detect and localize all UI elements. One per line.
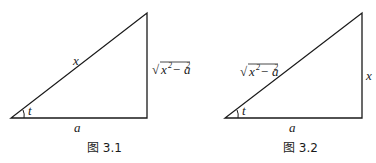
hypotenuse-label: x bbox=[72, 53, 79, 68]
figure-caption: 图 3.1 bbox=[87, 141, 122, 155]
figure-3-1: t x a √ x 2 − a 2 图 3.1 bbox=[11, 13, 191, 155]
svg-text:2: 2 bbox=[186, 61, 190, 70]
hypotenuse-label: √ x 2 − a 2 bbox=[240, 63, 279, 79]
base-label: a bbox=[74, 120, 81, 135]
svg-text:x: x bbox=[248, 64, 255, 79]
svg-text:√: √ bbox=[152, 62, 160, 77]
svg-text:x: x bbox=[160, 62, 167, 77]
svg-text:2: 2 bbox=[274, 63, 278, 72]
figure-caption: 图 3.2 bbox=[283, 141, 318, 155]
angle-label: t bbox=[28, 103, 32, 118]
vertical-side-label: √ x 2 − a 2 bbox=[152, 61, 191, 77]
angle-label: t bbox=[242, 103, 246, 118]
vertical-side-label: x bbox=[365, 68, 372, 83]
angle-arc bbox=[23, 110, 24, 118]
base-label: a bbox=[289, 120, 296, 135]
angle-arc bbox=[237, 110, 238, 118]
figure-3-2: t √ x 2 − a 2 x a 图 3.2 bbox=[225, 13, 372, 155]
diagram-canvas: t x a √ x 2 − a 2 图 3.1 t √ x 2 − a 2 x … bbox=[0, 0, 376, 163]
svg-text:√: √ bbox=[240, 64, 248, 79]
